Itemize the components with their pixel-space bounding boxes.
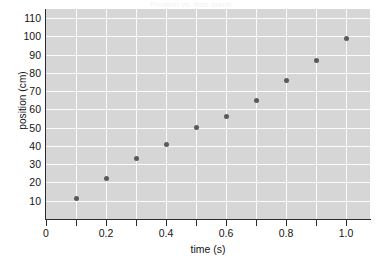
gridline-horizontal — [46, 91, 370, 92]
y-axis-tick-label: 90 — [1, 50, 41, 61]
x-axis-title: time (s) — [46, 243, 370, 255]
x-axis-tick-label: 0.8 — [266, 228, 306, 239]
gridline-horizontal — [46, 182, 370, 183]
data-point — [134, 156, 139, 161]
gridline-horizontal — [46, 128, 370, 129]
gridline-horizontal — [46, 36, 370, 37]
gridline-horizontal — [46, 146, 370, 147]
x-axis-tick-mark — [226, 220, 227, 226]
x-axis-tick-mark — [196, 220, 197, 226]
x-axis-tick-mark — [166, 220, 167, 226]
gridline-horizontal — [46, 201, 370, 202]
y-axis-tick-label: 10 — [1, 196, 41, 207]
data-point — [344, 36, 349, 41]
x-axis-tick-mark — [316, 220, 317, 226]
y-axis-tick-label: 30 — [1, 159, 41, 170]
y-axis-tick-label: 40 — [1, 141, 41, 152]
chart-figure: Position vs. time graph position (cm) 10… — [0, 0, 382, 260]
gridline-horizontal — [46, 109, 370, 110]
x-axis-tick-label: 0.2 — [86, 228, 126, 239]
gridline-vertical — [316, 9, 317, 219]
gridline-horizontal — [46, 164, 370, 165]
x-axis-tick-label: 0.6 — [206, 228, 246, 239]
data-point — [164, 142, 169, 147]
gridline-vertical — [256, 9, 257, 219]
x-axis-tick-mark — [286, 220, 287, 226]
y-axis-tick-label: 100 — [1, 31, 41, 42]
x-axis-tick-mark — [46, 220, 47, 226]
data-point — [254, 98, 259, 103]
plot-area — [46, 9, 370, 219]
data-point — [314, 58, 319, 63]
x-axis-tick-label: 1.0 — [326, 228, 366, 239]
x-axis-tick-mark — [106, 220, 107, 226]
y-axis-line — [45, 9, 46, 220]
y-axis-tick-label: 70 — [1, 86, 41, 97]
gridline-horizontal — [46, 18, 370, 19]
gridline-vertical — [76, 9, 77, 219]
gridline-vertical — [136, 9, 137, 219]
gridline-vertical — [196, 9, 197, 219]
gridline-vertical — [166, 9, 167, 219]
y-axis-tick-label: 60 — [1, 104, 41, 115]
x-axis-tick-label: 0.4 — [146, 228, 186, 239]
gridline-horizontal — [46, 55, 370, 56]
gridline-vertical — [106, 9, 107, 219]
data-point — [104, 176, 109, 181]
x-axis-tick-mark — [346, 220, 347, 226]
y-axis-tick-label: 20 — [1, 177, 41, 188]
gridline-horizontal — [46, 73, 370, 74]
y-axis-tick-labels: 102030405060708090100110 — [0, 0, 41, 260]
x-axis-tick-mark — [136, 220, 137, 226]
x-axis-tick-mark — [76, 220, 77, 226]
data-point — [194, 125, 199, 130]
x-axis-tick-label: 0 — [26, 228, 66, 239]
gridline-vertical — [286, 9, 287, 219]
x-axis-line — [45, 219, 371, 220]
data-point — [224, 114, 229, 119]
data-point — [284, 78, 289, 83]
y-axis-tick-label: 50 — [1, 123, 41, 134]
y-axis-tick-label: 80 — [1, 68, 41, 79]
y-axis-tick-label: 110 — [1, 13, 41, 24]
figure-caption: Position vs. time graph — [0, 0, 382, 7]
x-axis-tick-mark — [256, 220, 257, 226]
data-point — [74, 196, 79, 201]
